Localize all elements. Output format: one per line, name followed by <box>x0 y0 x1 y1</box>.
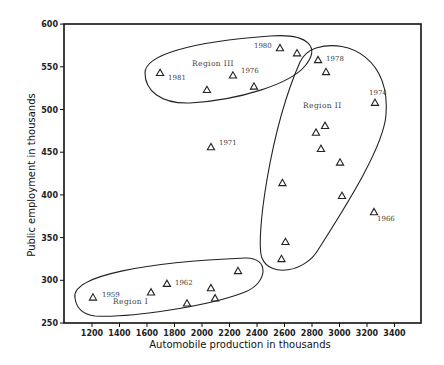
data-point-triangle <box>183 300 190 306</box>
data-point-triangle <box>282 238 289 244</box>
data-point-triangle <box>370 208 377 214</box>
point-year-label: 1962 <box>175 279 193 287</box>
x-tick-label: 1200 <box>81 329 104 338</box>
data-point-triangle <box>278 255 285 261</box>
data-point-triangle <box>279 179 286 185</box>
point-year-label: 1974 <box>369 89 387 97</box>
data-point-triangle <box>276 44 283 50</box>
scatter-chart: Region IRegion IIRegion III 250300350400… <box>0 0 444 365</box>
y-tick-label: 600 <box>41 20 58 29</box>
point-year-label: 1971 <box>219 139 237 147</box>
y-axis: 250300350400450500550600 <box>41 20 64 328</box>
data-point-triangle <box>211 295 218 301</box>
region-label: Region II <box>303 101 342 110</box>
data-point-triangle <box>338 192 345 198</box>
data-point-triangle <box>207 143 214 149</box>
data-point-triangle <box>147 289 154 295</box>
x-tick-label: 3400 <box>383 329 406 338</box>
x-tick-label: 1800 <box>163 329 186 338</box>
y-tick-label: 500 <box>41 106 58 115</box>
x-tick-label: 3000 <box>328 329 351 338</box>
data-point-triangle <box>89 294 96 300</box>
data-point-triangle <box>371 99 378 105</box>
data-points: 195919621981197619801971197819741966 <box>89 42 395 306</box>
region-outline <box>145 36 312 103</box>
data-point-triangle <box>229 72 236 78</box>
point-year-label: 1959 <box>102 291 120 299</box>
point-year-label: 1978 <box>326 55 344 63</box>
x-tick-label: 3200 <box>356 329 379 338</box>
data-point-triangle <box>312 129 319 135</box>
y-tick-label: 300 <box>41 276 58 285</box>
point-year-label: 1976 <box>241 67 259 75</box>
region-outline <box>75 258 263 316</box>
data-point-triangle <box>250 83 257 89</box>
x-tick-label: 2600 <box>273 329 296 338</box>
data-point-triangle <box>322 68 329 74</box>
y-tick-label: 450 <box>41 148 58 157</box>
x-axis: 1200140016001800200022002400260028003000… <box>81 323 406 338</box>
x-tick-label: 2200 <box>218 329 241 338</box>
x-axis-label: Automobile production in thousands <box>149 339 330 350</box>
y-axis-label: Public employment in thousands <box>26 93 37 256</box>
y-tick-label: 550 <box>41 63 58 72</box>
data-point-triangle <box>156 69 163 75</box>
x-tick-label: 2800 <box>301 329 324 338</box>
point-year-label: 1966 <box>377 215 395 223</box>
data-point-triangle <box>314 56 321 62</box>
data-point-triangle <box>234 267 241 273</box>
data-point-triangle <box>163 280 170 286</box>
x-tick-label: 2400 <box>246 329 269 338</box>
x-tick-label: 2000 <box>191 329 214 338</box>
data-point-triangle <box>203 86 210 92</box>
region-outline <box>260 46 386 271</box>
y-tick-label: 350 <box>41 234 58 243</box>
data-point-triangle <box>293 50 300 56</box>
x-tick-label: 1400 <box>108 329 131 338</box>
point-year-label: 1981 <box>168 74 186 82</box>
y-tick-label: 400 <box>41 191 58 200</box>
data-point-triangle <box>321 122 328 128</box>
point-year-label: 1980 <box>254 42 272 50</box>
y-tick-label: 250 <box>41 319 58 328</box>
data-point-triangle <box>207 284 214 290</box>
x-tick-label: 1600 <box>136 329 159 338</box>
data-point-triangle <box>336 159 343 165</box>
region-label: Region III <box>192 59 234 68</box>
data-point-triangle <box>317 145 324 151</box>
